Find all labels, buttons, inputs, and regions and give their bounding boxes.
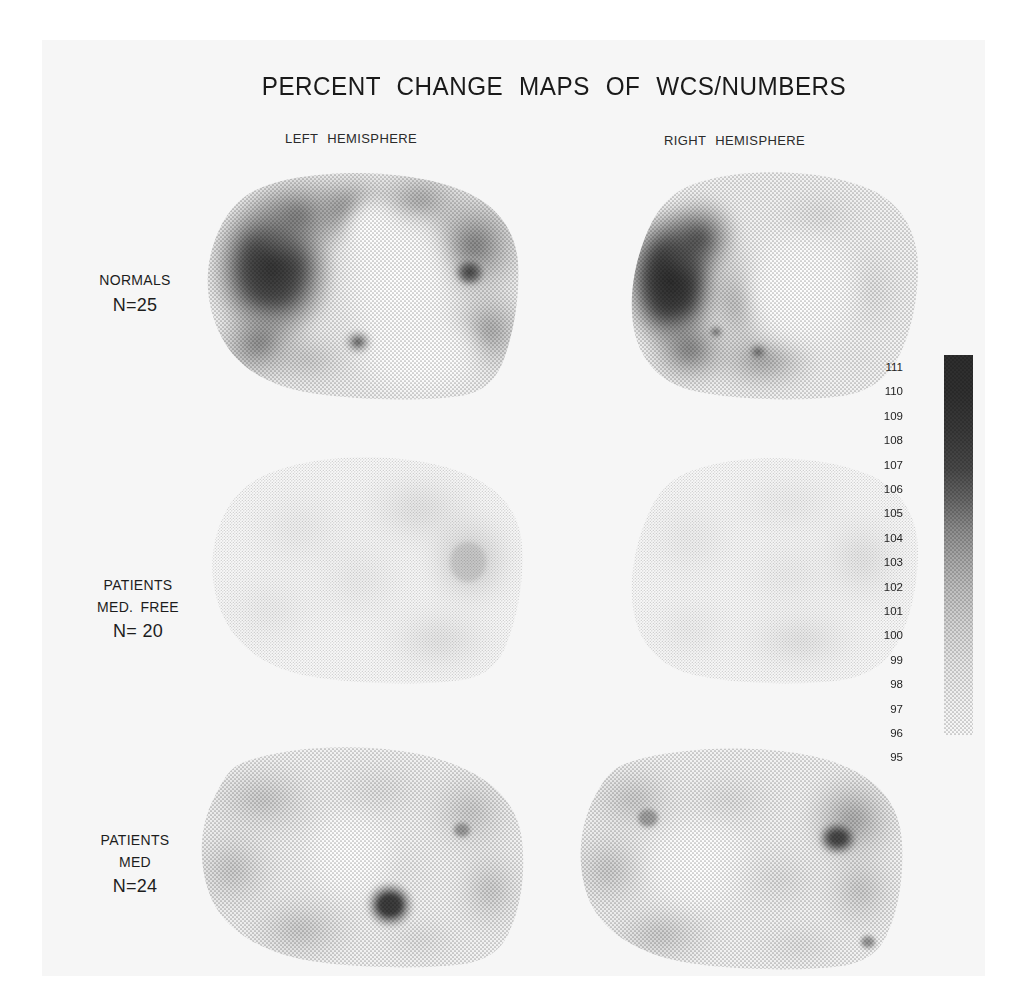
colorbar-tick-107: 107 — [869, 460, 903, 472]
colorbar-tick-108: 108 — [869, 435, 903, 447]
brain-map-normals-right — [620, 160, 940, 420]
colorbar-tick-96: 96 — [869, 728, 903, 740]
brain-map-normals-left — [190, 160, 550, 420]
colorbar-tick-101: 101 — [869, 606, 903, 618]
colorbar-tick-97: 97 — [869, 704, 903, 716]
colorbar-tick-109: 109 — [869, 411, 903, 423]
colorbar-tick-110: 110 — [869, 386, 903, 398]
colorbar-tick-102: 102 — [869, 582, 903, 594]
colorbar-tick-104: 104 — [869, 533, 903, 545]
colorbar-gradient — [944, 355, 973, 735]
colorbar-tick-99: 99 — [869, 655, 903, 667]
colorbar-tick-111: 111 — [869, 362, 903, 374]
brain-map-grid — [0, 0, 1019, 1004]
colorbar-tick-98: 98 — [869, 679, 903, 691]
colorbar-tick-100: 100 — [869, 630, 903, 642]
percent-change-figure: PERCENT CHANGE MAPS OF WCS/NUMBERS LEFT … — [0, 0, 1019, 1004]
brain-map-patients-med-free-left — [200, 445, 540, 695]
brain-map-patients-med-right — [554, 735, 920, 980]
brain-map-patients-med-left — [174, 735, 540, 980]
colorbar-tick-95: 95 — [869, 752, 903, 764]
colorbar-tick-103: 103 — [869, 557, 903, 569]
colorbar-tick-106: 106 — [869, 484, 903, 496]
colorbar-tick-105: 105 — [869, 508, 903, 520]
